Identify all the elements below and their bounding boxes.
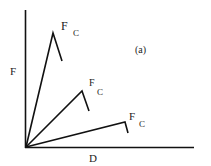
curve-1-peak-subscript: C bbox=[73, 28, 79, 38]
curve-2-peak-label: F bbox=[89, 77, 95, 88]
curve-2-peak-subscript: C bbox=[97, 87, 103, 97]
curve-3 bbox=[26, 122, 128, 147]
panel-label: (a) bbox=[135, 44, 146, 56]
force-displacement-diagram: F C F C F C F D (a) bbox=[0, 0, 211, 166]
y-axis-label: F bbox=[10, 65, 16, 77]
curve-3-peak-label: F bbox=[129, 110, 135, 122]
x-axis-label: D bbox=[89, 152, 97, 164]
curve-3-peak-subscript: C bbox=[139, 119, 145, 129]
curve-1-peak-label: F bbox=[61, 19, 68, 33]
